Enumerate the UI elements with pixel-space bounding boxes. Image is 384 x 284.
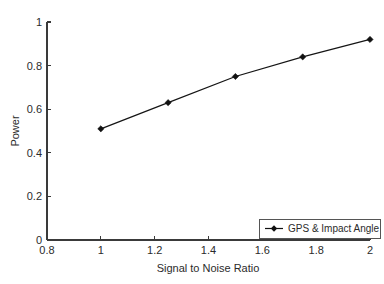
x-tick-label-4: 1.6 <box>255 244 270 256</box>
chart-figure: 0 0.2 0.4 0.6 0.8 1 0.8 1 1.2 1.4 1.6 1.… <box>0 0 384 284</box>
figure-background <box>0 0 384 284</box>
x-tick-label-5: 1.8 <box>309 244 324 256</box>
y-tick-label-3: 0.6 <box>27 103 42 115</box>
x-tick-label-3: 1.4 <box>201 244 216 256</box>
x-axis-title: Signal to Noise Ratio <box>157 262 260 274</box>
chart-canvas: 0 0.2 0.4 0.6 0.8 1 0.8 1 1.2 1.4 1.6 1.… <box>0 0 384 284</box>
chart-legend[interactable]: GPS & Impact Angle <box>259 219 380 238</box>
y-axis-title: Power <box>9 115 21 147</box>
x-tick-label-0: 0.8 <box>39 244 54 256</box>
y-tick-label-4: 0.8 <box>27 60 42 72</box>
x-tick-label-2: 1.2 <box>147 244 162 256</box>
y-tick-label-1: 0.2 <box>27 190 42 202</box>
legend-entry-label: GPS & Impact Angle <box>288 223 380 234</box>
y-tick-label-2: 0.4 <box>27 147 42 159</box>
y-tick-label-5: 1 <box>36 16 42 28</box>
x-tick-label-1: 1 <box>98 244 104 256</box>
x-tick-label-6: 2 <box>367 244 373 256</box>
